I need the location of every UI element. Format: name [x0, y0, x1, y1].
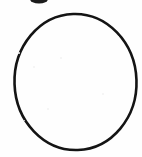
paper-background — [0, 0, 142, 157]
scanned-page — [0, 0, 142, 157]
figure-canvas — [0, 0, 142, 157]
